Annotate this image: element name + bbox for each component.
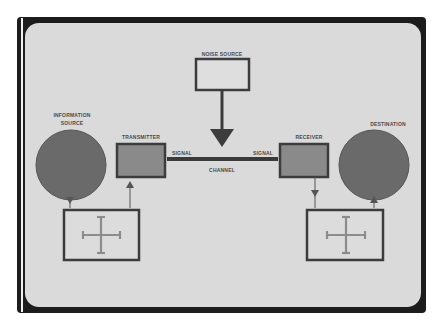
information-source-circle [36, 130, 106, 200]
channel-label: CHANNEL [209, 167, 235, 173]
transmitter-box [117, 144, 165, 177]
signal-left-label: SIGNAL [172, 150, 192, 156]
source-input-box [64, 210, 139, 260]
receiver-box [280, 144, 328, 177]
receiver-label: RECEIVER [295, 134, 322, 140]
noise-source-box [196, 59, 249, 90]
information-source-label-1: INFORMATION [53, 112, 90, 118]
destination-label: DESTINATION [370, 121, 406, 127]
transmitter-label: TRANSMITTER [122, 134, 160, 140]
diagram-canvas: NOISE SOURCE INFORMATION SOURCE TRANSMIT… [0, 0, 448, 328]
destination-circle [339, 130, 409, 200]
signal-right-label: SIGNAL [253, 150, 273, 156]
channel-bar [167, 157, 278, 161]
frame-left-line [21, 18, 23, 312]
destination-output-box [307, 210, 383, 260]
information-source-label-2: SOURCE [61, 120, 84, 126]
noise-source-label: NOISE SOURCE [202, 51, 243, 57]
